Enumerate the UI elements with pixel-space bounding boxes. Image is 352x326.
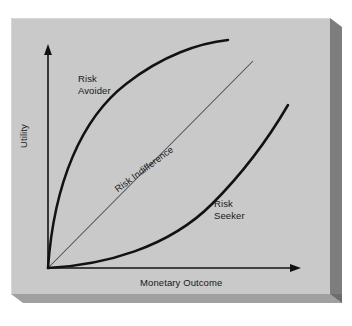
x-axis-label: Monetary Outcome — [140, 277, 222, 289]
panel-bevel-bottom — [11, 294, 342, 303]
curve-label-risk-seeker: Risk Seeker — [214, 198, 245, 221]
panel-bevel-right — [330, 18, 342, 303]
y-axis-label: Utility — [18, 124, 30, 148]
figure-root: Risk Avoider Risk Seeker Risk Indifferen… — [0, 0, 352, 326]
curve-label-risk-avoider: Risk Avoider — [78, 73, 111, 96]
